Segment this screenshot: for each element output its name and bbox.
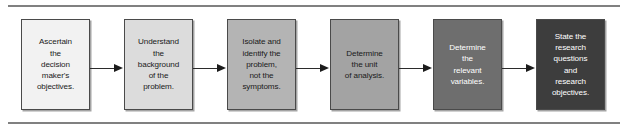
process-step-2-label: Understand the background of the problem…	[138, 36, 179, 92]
arrow-head-icon	[423, 64, 432, 72]
process-step-1-label: Ascertain the decision maker's objective…	[37, 36, 74, 92]
arrow-shaft-icon	[193, 68, 218, 69]
process-step-6: State the research questions and researc…	[536, 19, 605, 110]
arrow-step-4-to-5	[399, 64, 433, 73]
arrow-head-icon	[217, 64, 226, 72]
arrow-step-3-to-4	[296, 64, 330, 73]
arrow-shaft-icon	[399, 68, 424, 69]
process-step-2: Understand the background of the problem…	[124, 19, 193, 110]
arrow-step-1-to-2	[90, 64, 124, 73]
bottom-divider-rule	[8, 122, 620, 124]
arrow-shaft-icon	[296, 68, 321, 69]
flowchart-canvas: Ascertain the decision maker's objective…	[0, 0, 628, 133]
arrow-shaft-icon	[502, 68, 527, 69]
arrow-head-icon	[526, 64, 535, 72]
process-step-3-label: Isolate and identify the problem, not th…	[242, 36, 281, 92]
arrow-head-icon	[114, 64, 123, 72]
process-step-3: Isolate and identify the problem, not th…	[227, 19, 296, 110]
process-flow-figure: Ascertain the decision maker's objective…	[0, 0, 628, 133]
arrow-step-5-to-6	[502, 64, 536, 73]
arrow-head-icon	[320, 64, 329, 72]
process-step-1: Ascertain the decision maker's objective…	[21, 19, 90, 110]
arrow-step-2-to-3	[193, 64, 227, 73]
process-step-4-label: Determine the unit of analysis.	[345, 48, 384, 82]
process-step-5: Determine the relevant variables.	[433, 19, 502, 110]
process-step-5-label: Determine the relevant variables.	[449, 42, 485, 87]
process-step-6-label: State the research questions and researc…	[552, 31, 589, 98]
process-step-4: Determine the unit of analysis.	[330, 19, 399, 110]
arrow-shaft-icon	[90, 68, 115, 69]
